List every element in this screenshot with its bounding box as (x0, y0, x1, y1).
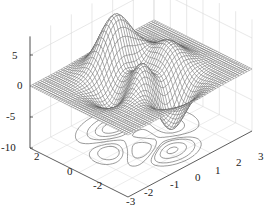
x-tick-label: 2 (236, 156, 242, 168)
surface-plot: 5 0 -5 -10 2 0 -2 -3 -2 -1 0 1 2 3 (0, 0, 275, 208)
x-tick-label: -2 (144, 186, 153, 198)
y-tick-label: 2 (34, 150, 40, 162)
mesh-surface (30, 14, 252, 135)
x-tick-label: -3 (126, 195, 136, 207)
z-tick-label: -10 (1, 141, 16, 153)
x-tick-label: 0 (195, 171, 201, 183)
x-tick-label: 1 (215, 164, 221, 176)
z-tick-label: 5 (12, 49, 18, 61)
z-tick-label: 0 (17, 79, 23, 91)
y-tick-label: 0 (67, 165, 73, 177)
x-tick-label: -1 (170, 178, 179, 190)
x-tick-label: 3 (258, 150, 264, 162)
y-tick-label: -2 (93, 179, 102, 191)
z-tick-label: -5 (6, 110, 16, 122)
